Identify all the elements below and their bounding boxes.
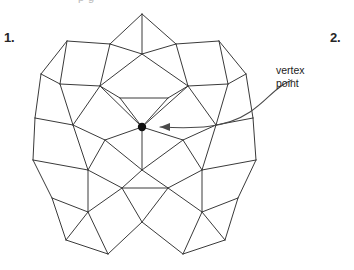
tile-edge — [122, 188, 142, 222]
tile-edge — [238, 160, 256, 198]
item-number-2: 2. — [330, 30, 340, 45]
tile-edge — [142, 54, 188, 86]
tile-edge — [142, 127, 183, 140]
tile-edge — [67, 41, 110, 44]
tile-edge — [41, 74, 60, 84]
tile-edge — [33, 118, 35, 160]
tile-edge — [176, 41, 219, 44]
tile-edge — [142, 86, 188, 127]
tile-edge — [120, 98, 142, 127]
tile-edge — [35, 118, 73, 125]
tile-edge — [228, 74, 246, 84]
tile-edge — [183, 212, 202, 254]
vertex-point-callout: vertex point — [276, 64, 305, 89]
tile-edge — [60, 84, 100, 86]
tile-edge — [188, 84, 228, 86]
tile-edge — [168, 86, 188, 98]
callout-line-2: point — [276, 77, 305, 90]
clipped-header-text: p g — [78, 0, 95, 3]
tile-edge — [142, 140, 183, 170]
tile-edge — [105, 127, 142, 140]
tile-edge — [41, 41, 67, 74]
tiling-edges-group — [33, 14, 256, 254]
callout-arrow-curve — [160, 80, 292, 128]
tile-edge — [142, 170, 168, 188]
tile-edge — [253, 118, 256, 160]
tile-edge — [88, 188, 122, 212]
tile-edge — [35, 74, 41, 118]
tile-edge — [176, 44, 188, 86]
tile-edge — [66, 240, 108, 254]
tile-edge — [142, 14, 176, 44]
tile-edge — [142, 44, 176, 54]
tile-edge — [73, 125, 105, 140]
tile-edge — [88, 212, 108, 254]
tile-edge — [105, 140, 142, 170]
tile-edge — [202, 125, 216, 170]
snub-square-tiling-diagram — [0, 0, 354, 270]
worksheet-figure-panel: p g 1. 2. vertex point — [0, 0, 354, 270]
tile-edge — [219, 41, 228, 84]
tile-edge — [33, 160, 52, 198]
callout-line-1: vertex — [276, 64, 305, 77]
tile-edge — [66, 212, 88, 240]
tile-edge — [110, 14, 142, 44]
tile-edge — [168, 170, 202, 188]
tile-edge — [246, 74, 253, 118]
tile-edge — [88, 140, 105, 170]
tile-edge — [52, 198, 66, 240]
tile-edge — [73, 86, 100, 125]
callout-arrow-head — [160, 123, 170, 131]
tile-edge — [122, 170, 142, 188]
tile-edge — [216, 84, 228, 125]
tile-edge — [108, 222, 142, 254]
tile-edge — [88, 170, 122, 188]
item-number-1: 1. — [4, 30, 14, 45]
tile-edge — [202, 212, 225, 240]
tile-edge — [73, 125, 88, 170]
tile-edge — [110, 44, 142, 54]
tile-edge — [52, 198, 88, 212]
vertex-point-marker — [138, 123, 146, 131]
tile-edge — [142, 98, 168, 127]
tile-edge — [168, 188, 202, 212]
tile-edge — [188, 86, 216, 125]
tile-edge — [225, 198, 238, 240]
tile-edge — [219, 41, 246, 74]
tile-edge — [142, 188, 168, 222]
tile-edge — [100, 86, 142, 127]
tile-edge — [202, 160, 256, 170]
tile-edge — [183, 140, 202, 170]
tile-edge — [183, 240, 225, 254]
tile-edge — [60, 84, 73, 125]
tile-edge — [142, 222, 183, 254]
tile-edge — [33, 160, 88, 170]
tile-edge — [202, 198, 238, 212]
tile-edge — [60, 41, 67, 84]
